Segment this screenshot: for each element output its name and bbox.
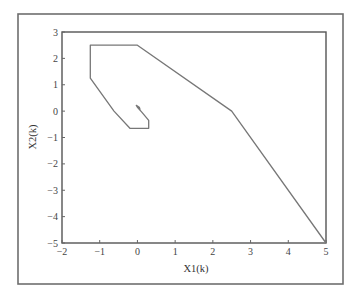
x-axis-label: X1(k) — [183, 263, 209, 275]
x-tick-label: −1 — [94, 246, 105, 257]
y-tick-label: 3 — [53, 27, 58, 38]
y-tick-label: 1 — [53, 79, 58, 90]
x-tick-label: 3 — [248, 246, 253, 257]
y-axis-label: X2(k) — [27, 124, 39, 150]
y-tick-label: −1 — [47, 132, 58, 143]
phase-plot-figure: −2−1012345 3210−1−2−3−4−5 X1(k) X2(k) — [0, 0, 357, 302]
x-tick-label: 2 — [210, 246, 215, 257]
y-tick-label: 2 — [53, 53, 58, 64]
y-tick-label: −3 — [47, 185, 58, 196]
x-tick-label: 1 — [173, 246, 178, 257]
y-tick-label: −5 — [47, 238, 58, 249]
plot-area — [62, 32, 326, 243]
y-tick-label: 0 — [53, 106, 58, 117]
y-tick-label: −4 — [47, 211, 58, 222]
x-tick-label: 4 — [286, 246, 291, 257]
x-tick-label: −2 — [57, 246, 68, 257]
y-tick-label: −2 — [47, 158, 58, 169]
x-tick-label: 0 — [135, 246, 140, 257]
x-tick-label: 5 — [324, 246, 329, 257]
trajectory-line — [90, 45, 326, 243]
